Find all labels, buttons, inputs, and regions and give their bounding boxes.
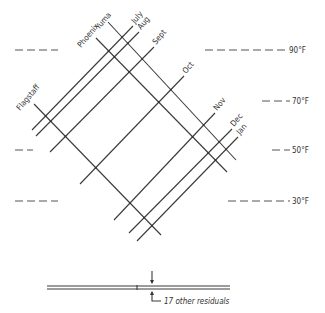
fit-point bbox=[215, 159, 217, 161]
site-line-flagstaff bbox=[34, 104, 161, 235]
two-way-fit-diagram: 90°F70°F50°F30°F FlagstaffPhoenixYuma Ju… bbox=[0, 0, 325, 313]
month-line-nov bbox=[114, 113, 215, 220]
fit-point bbox=[50, 120, 52, 122]
temp-label-30-f: 30°F bbox=[292, 197, 309, 206]
fit-point bbox=[108, 50, 110, 52]
fit-point bbox=[192, 136, 194, 138]
temperature-reference-levels: 90°F70°F50°F30°F bbox=[15, 46, 309, 206]
fit-point bbox=[129, 202, 131, 204]
fit-point bbox=[225, 148, 227, 150]
fit-point bbox=[95, 167, 97, 169]
site-lines: FlagstaffPhoenixYuma bbox=[15, 11, 236, 235]
month-label-sept: Sept bbox=[151, 28, 169, 46]
month-line-aug bbox=[36, 32, 139, 136]
fit-point bbox=[203, 124, 205, 126]
temp-label-70-f: 70°F bbox=[292, 97, 309, 106]
temp-label-50-f: 50°F bbox=[292, 146, 309, 155]
fit-point bbox=[158, 101, 160, 103]
down-arrowhead-icon bbox=[150, 280, 154, 284]
residuals-strip: 17 other residuals bbox=[47, 271, 230, 306]
fit-point bbox=[218, 141, 220, 143]
fit-point bbox=[114, 56, 116, 58]
month-label-nov: Nov bbox=[212, 95, 228, 112]
fit-point bbox=[170, 89, 172, 91]
residuals-label: 17 other residuals bbox=[164, 297, 230, 306]
month-lines: JulyAugSeptOctNovDecJan bbox=[32, 9, 249, 241]
site-line-phoenix bbox=[96, 38, 227, 172]
fit-point bbox=[65, 136, 67, 138]
residual-leader-line bbox=[152, 292, 161, 301]
fit-point bbox=[151, 225, 153, 227]
fit-point bbox=[121, 36, 123, 38]
fit-point bbox=[141, 58, 143, 60]
month-label-oct: Oct bbox=[181, 60, 196, 75]
fit-point bbox=[207, 152, 209, 154]
fit-point bbox=[127, 42, 129, 44]
fit-point bbox=[45, 115, 47, 117]
fit-point bbox=[128, 71, 130, 73]
fit-point bbox=[143, 217, 145, 219]
temp-label-90-f: 90°F bbox=[289, 46, 306, 55]
